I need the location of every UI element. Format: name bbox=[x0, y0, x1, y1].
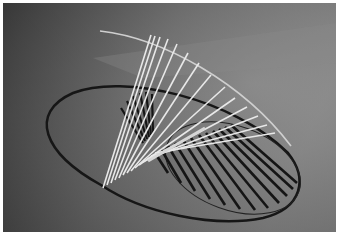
photo-sculpture bbox=[3, 3, 336, 232]
sculpture-illustration bbox=[3, 3, 336, 232]
